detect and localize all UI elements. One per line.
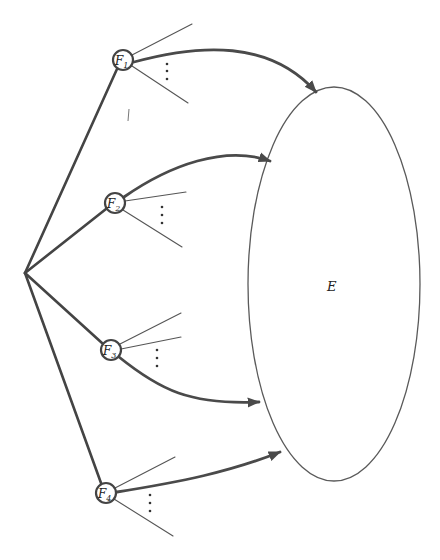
root-edges — [25, 69, 117, 483]
node-f1: F1 — [113, 50, 133, 70]
tree-diagram: E — [0, 0, 440, 560]
arrow-f3-to-e — [119, 357, 259, 402]
f2-branches — [123, 155, 270, 247]
set-e-label: E — [326, 279, 337, 294]
arrow-f2-to-e — [124, 155, 270, 197]
node-f3: F3 — [101, 340, 121, 360]
edge-root-f1 — [25, 69, 117, 273]
f1-branches — [128, 24, 316, 121]
f3-branches — [119, 313, 259, 402]
edge-root-f2 — [25, 209, 106, 273]
node-f4: F4 — [96, 483, 116, 503]
f4-branches — [114, 452, 280, 536]
node-f2: F2 — [105, 193, 125, 213]
edge-root-f4 — [25, 273, 101, 483]
arrow-f4-to-e — [117, 452, 280, 492]
